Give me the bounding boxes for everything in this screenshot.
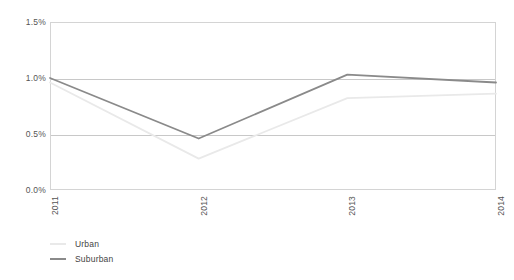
legend-swatch-icon — [50, 258, 66, 260]
legend-item-label: Urban — [75, 239, 99, 249]
legend-item-label: Suburban — [75, 254, 113, 264]
y-axis-tick-label: 1.0% — [4, 73, 46, 83]
x-axis-tick-label: 2013 — [347, 196, 357, 216]
y-axis-tick-label: 1.5% — [4, 17, 46, 27]
x-axis-tick-label: 2011 — [50, 196, 60, 215]
y-axis: 0.0%0.5%1.0%1.5% — [0, 0, 46, 280]
series-layer — [50, 22, 496, 190]
y-axis-tick-label: 0.5% — [4, 129, 46, 139]
x-axis-tick-label: 2014 — [496, 196, 506, 216]
legend-swatch-icon — [50, 243, 66, 245]
chart-legend: UrbanSuburban — [50, 236, 113, 266]
line-chart: 0.0%0.5%1.0%1.5% 2011201220132014 UrbanS… — [0, 0, 514, 280]
legend-item-suburban[interactable]: Suburban — [50, 251, 113, 266]
x-axis-tick-label: 2012 — [199, 196, 209, 216]
y-axis-tick-label: 0.0% — [4, 185, 46, 195]
legend-item-urban[interactable]: Urban — [50, 236, 113, 251]
series-line-urban — [50, 82, 496, 158]
